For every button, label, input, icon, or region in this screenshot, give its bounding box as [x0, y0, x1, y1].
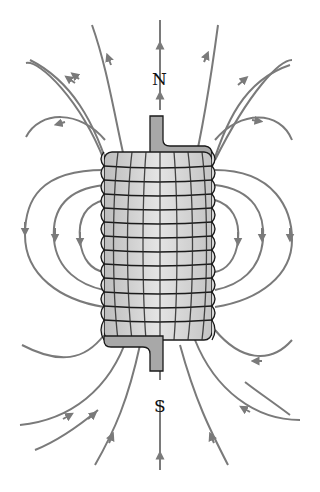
core-bottom: [104, 336, 163, 371]
south-pole-label: S: [154, 398, 166, 415]
north-pole-label: N: [152, 71, 167, 88]
coil: [101, 152, 215, 340]
